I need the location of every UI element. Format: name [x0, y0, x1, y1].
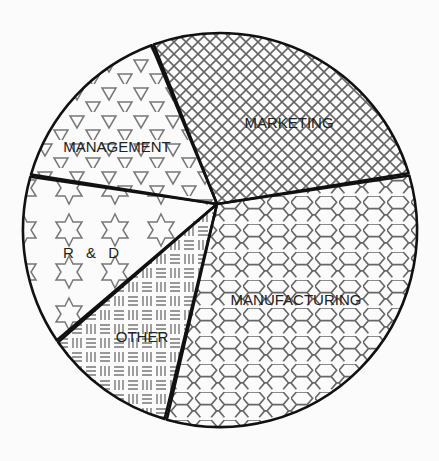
pie-chart: MARKETINGMANUFACTURINGOTHERR & DMANAGEME…	[0, 0, 439, 461]
slice-label: R & D	[63, 244, 119, 261]
slice-label: OTHER	[116, 328, 169, 345]
slice-label: MANAGEMENT	[63, 138, 171, 155]
slice-label: MARKETING	[244, 114, 333, 131]
pie-slices	[23, 33, 417, 427]
slice-label: MANUFACTURING	[231, 291, 362, 308]
